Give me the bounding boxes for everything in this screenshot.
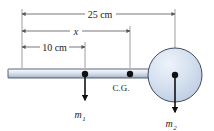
diagram-canvas: 25 cm x 10 cm C.G. m 1 [0,0,214,131]
cg-point [127,71,133,77]
m2-label-subscript: 2 [173,124,177,131]
m2-label: m 2 [165,118,177,131]
dimension-distance-to-m1: 10 cm [22,42,85,53]
cg-label: C.G. [112,83,129,93]
dimension-label-distance-to-m1: 10 cm [42,42,67,53]
dimension-distance-to-cg: x [22,26,130,37]
dimension-label-distance-to-cg: x [73,26,79,37]
m1-label-subscript: 1 [82,115,86,123]
m2-point [172,72,178,78]
dimension-label-total-length: 25 cm [88,9,113,20]
m1-point [82,71,88,77]
dimension-total-length: 25 cm [22,9,175,20]
m1-label-symbol: m [74,109,81,120]
m1-label: m 1 [74,109,85,123]
m2-label-symbol: m [165,118,172,129]
physics-diagram: 25 cm x 10 cm C.G. m 1 [0,0,214,131]
